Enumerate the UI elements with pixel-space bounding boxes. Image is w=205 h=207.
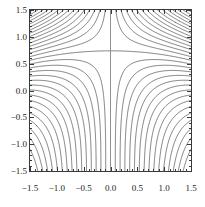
axis-tick-mark bbox=[30, 166, 32, 167]
axis-tick-mark bbox=[189, 101, 191, 102]
axis-tick-mark bbox=[30, 80, 32, 81]
axis-tick-mark bbox=[30, 117, 34, 118]
axis-tick-mark bbox=[30, 53, 32, 54]
axis-tick-mark bbox=[189, 31, 191, 32]
axis-tick-mark bbox=[30, 64, 34, 65]
axis-tick-mark bbox=[68, 10, 69, 12]
contour-line bbox=[30, 10, 90, 46]
contour-line bbox=[132, 10, 192, 46]
axis-tick-mark bbox=[30, 42, 32, 43]
axis-tick-mark bbox=[57, 167, 58, 171]
axis-tick-mark bbox=[62, 10, 63, 12]
contour-line bbox=[30, 10, 69, 33]
axis-tick-mark bbox=[84, 10, 85, 14]
contour-line bbox=[152, 10, 191, 33]
axis-tick-mark bbox=[30, 101, 32, 102]
contour-lines bbox=[30, 10, 191, 171]
axis-tick-mark bbox=[46, 169, 47, 171]
axis-tick-mark bbox=[30, 160, 32, 161]
contour-plot-figure: 1.51.00.50.0−0.5−1.0−1.5 −1.5−1.0−0.50.0… bbox=[0, 0, 205, 207]
axis-tick-mark bbox=[30, 112, 32, 113]
axis-tick-mark bbox=[137, 167, 138, 171]
contour-line bbox=[168, 10, 191, 24]
axis-tick-mark bbox=[30, 123, 32, 124]
axis-tick-mark bbox=[30, 31, 32, 32]
axis-tick-mark bbox=[175, 169, 176, 171]
axis-tick-mark bbox=[189, 133, 191, 134]
contour-line bbox=[30, 113, 58, 171]
axis-tick-mark bbox=[100, 169, 101, 171]
axis-tick-mark bbox=[189, 160, 191, 161]
axis-tick-mark bbox=[51, 10, 52, 12]
axis-tick-mark bbox=[189, 74, 191, 75]
axis-tick-mark bbox=[121, 169, 122, 171]
axis-tick-mark bbox=[191, 167, 192, 171]
axis-tick-mark bbox=[30, 21, 32, 22]
axis-tick-mark bbox=[30, 128, 32, 129]
axis-tick-mark bbox=[30, 133, 32, 134]
axis-tick-mark bbox=[35, 169, 36, 171]
y-tick-label: −1.5 bbox=[1, 167, 27, 176]
plot-frame bbox=[29, 9, 192, 172]
axis-tick-mark bbox=[116, 169, 117, 171]
axis-tick-mark bbox=[189, 21, 191, 22]
y-tick-label: −0.5 bbox=[1, 113, 27, 122]
axis-tick-mark bbox=[41, 169, 42, 171]
axis-tick-mark bbox=[78, 10, 79, 12]
axis-tick-mark bbox=[30, 26, 32, 27]
axis-tick-mark bbox=[30, 58, 32, 59]
axis-tick-mark bbox=[41, 10, 42, 12]
axis-tick-mark bbox=[127, 169, 128, 171]
x-tick-label: −1.5 bbox=[15, 184, 45, 193]
axis-tick-mark bbox=[189, 96, 191, 97]
axis-tick-mark bbox=[132, 10, 133, 12]
axis-tick-mark bbox=[143, 169, 144, 171]
contour-line bbox=[120, 65, 191, 171]
axis-tick-mark bbox=[187, 117, 191, 118]
axis-tick-mark bbox=[94, 169, 95, 171]
axis-tick-mark bbox=[189, 139, 191, 140]
axis-tick-mark bbox=[62, 169, 63, 171]
axis-tick-mark bbox=[189, 42, 191, 43]
axis-tick-mark bbox=[189, 155, 191, 156]
axis-tick-mark bbox=[30, 150, 32, 151]
axis-tick-mark bbox=[187, 171, 191, 172]
axis-tick-mark bbox=[170, 10, 171, 12]
axis-tick-mark bbox=[175, 10, 176, 12]
axis-tick-mark bbox=[132, 169, 133, 171]
axis-tick-mark bbox=[89, 10, 90, 12]
axis-tick-mark bbox=[153, 169, 154, 171]
axis-tick-mark bbox=[148, 10, 149, 12]
y-tick-label: 1.5 bbox=[1, 6, 27, 15]
axis-tick-mark bbox=[189, 123, 191, 124]
axis-tick-mark bbox=[191, 10, 192, 14]
contour-line bbox=[30, 10, 53, 24]
y-tick-label: 1.0 bbox=[1, 33, 27, 42]
axis-tick-mark bbox=[30, 155, 32, 156]
x-tick-label: −1.0 bbox=[42, 184, 72, 193]
axis-tick-mark bbox=[189, 53, 191, 54]
axis-tick-mark bbox=[30, 107, 32, 108]
axis-tick-mark bbox=[180, 10, 181, 12]
axis-tick-mark bbox=[68, 169, 69, 171]
axis-tick-mark bbox=[189, 58, 191, 59]
axis-tick-mark bbox=[189, 48, 191, 49]
axis-tick-mark bbox=[30, 139, 32, 140]
axis-tick-mark bbox=[153, 10, 154, 12]
axis-tick-mark bbox=[189, 128, 191, 129]
axis-tick-mark bbox=[30, 96, 32, 97]
axis-tick-mark bbox=[30, 171, 34, 172]
x-axis-tick-labels: −1.5−1.0−0.50.00.51.01.5 bbox=[0, 184, 205, 198]
x-tick-label: 1.5 bbox=[176, 184, 205, 193]
axis-tick-mark bbox=[189, 15, 191, 16]
axis-tick-mark bbox=[35, 10, 36, 12]
axis-tick-mark bbox=[180, 169, 181, 171]
axis-tick-mark bbox=[57, 10, 58, 14]
axis-tick-mark bbox=[189, 26, 191, 27]
axis-tick-mark bbox=[170, 169, 171, 171]
axis-tick-mark bbox=[105, 10, 106, 12]
contour-line bbox=[111, 51, 192, 171]
axis-tick-mark bbox=[189, 107, 191, 108]
axis-tick-mark bbox=[189, 69, 191, 70]
axis-tick-mark bbox=[127, 10, 128, 12]
